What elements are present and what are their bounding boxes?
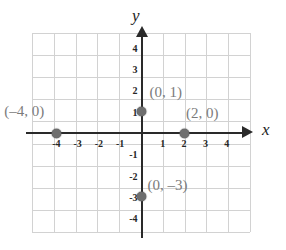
coordinate-plane-figure: x y -4-3-2-112344321-1-2-3-4 (–4, 0)(0, … bbox=[0, 0, 286, 250]
x-tick-label: -2 bbox=[95, 138, 103, 149]
x-axis-label: x bbox=[262, 120, 270, 140]
x-axis-arrow-icon bbox=[242, 126, 253, 138]
y-tick-label: -2 bbox=[123, 170, 138, 181]
plotted-point bbox=[180, 129, 189, 138]
y-axis-label: y bbox=[132, 6, 140, 26]
y-tick-label: 2 bbox=[123, 85, 138, 96]
x-tick-label: 3 bbox=[203, 138, 208, 149]
x-tick-label: -4 bbox=[52, 138, 60, 149]
y-axis-arrow-icon bbox=[136, 26, 148, 37]
x-tick-label: 1 bbox=[160, 138, 165, 149]
x-tick-label: -3 bbox=[73, 138, 81, 149]
x-tick-label: 2 bbox=[182, 138, 187, 149]
point-coordinate-label: (2, 0) bbox=[186, 105, 219, 122]
y-tick-label: 4 bbox=[123, 42, 138, 53]
point-coordinate-label: (0, 1) bbox=[150, 84, 183, 101]
y-tick-label: -4 bbox=[123, 213, 138, 224]
point-coordinate-label: (0, –3) bbox=[148, 177, 188, 194]
y-tick-label: -1 bbox=[123, 149, 138, 160]
x-tick-label: 4 bbox=[224, 138, 229, 149]
plotted-point bbox=[52, 129, 61, 138]
y-tick-label: 3 bbox=[123, 64, 138, 75]
y-tick-label: -3 bbox=[123, 191, 138, 202]
point-coordinate-label: (–4, 0) bbox=[4, 103, 44, 120]
x-tick-label: -1 bbox=[116, 138, 124, 149]
y-tick-label: 1 bbox=[123, 106, 138, 117]
y-axis-line bbox=[141, 34, 143, 238]
